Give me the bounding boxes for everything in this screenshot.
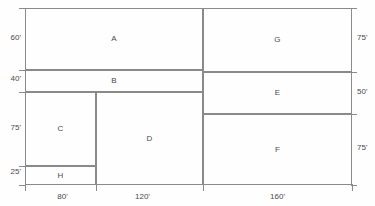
dimension-tick-right-top	[351, 8, 357, 9]
dimension-tick-right-75	[351, 72, 357, 73]
dimension-tick-bottom-80	[96, 184, 97, 191]
floor-plan-diagram: A B C H D G E F 60' 40' 75' 25' 75' 50' …	[0, 0, 375, 206]
dimension-left-25: 25'	[0, 168, 21, 176]
dimension-tick-bottom-120	[203, 184, 204, 191]
dimension-tick-left-top	[19, 8, 26, 9]
dimension-tick-bottom-right	[352, 184, 353, 191]
dimension-tick-left-40	[19, 92, 26, 93]
room-a: A	[25, 8, 203, 70]
room-label-a: A	[111, 35, 117, 43]
dimension-left-75: 75'	[0, 124, 21, 132]
room-b: B	[25, 70, 203, 92]
room-h: H	[25, 166, 96, 185]
dimension-bottom-160: 160'	[255, 193, 300, 201]
dimension-tick-right-50	[351, 114, 357, 115]
dimension-right-50: 50'	[357, 88, 375, 96]
room-label-e: E	[275, 89, 281, 97]
room-f: F	[203, 114, 352, 185]
room-label-d: D	[147, 135, 153, 143]
dimension-tick-left-75	[19, 166, 26, 167]
dimension-left-60: 60'	[0, 34, 21, 42]
dimension-left-40: 40'	[0, 75, 21, 83]
room-label-g: G	[274, 36, 280, 44]
dimension-tick-left-60	[19, 70, 26, 71]
dimension-bottom-80: 80'	[40, 193, 85, 201]
room-c: C	[25, 92, 96, 166]
dimension-bottom-120: 120'	[120, 193, 165, 201]
room-label-h: H	[58, 172, 64, 180]
room-d: D	[96, 92, 203, 185]
room-label-b: B	[111, 77, 117, 85]
dimension-tick-bottom-left	[25, 184, 26, 191]
dimension-right-75-bottom: 75'	[357, 144, 375, 152]
room-label-c: C	[58, 125, 64, 133]
room-e: E	[203, 72, 352, 114]
room-label-f: F	[275, 146, 280, 154]
dimension-right-75-top: 75'	[357, 34, 375, 42]
room-g: G	[203, 8, 352, 72]
